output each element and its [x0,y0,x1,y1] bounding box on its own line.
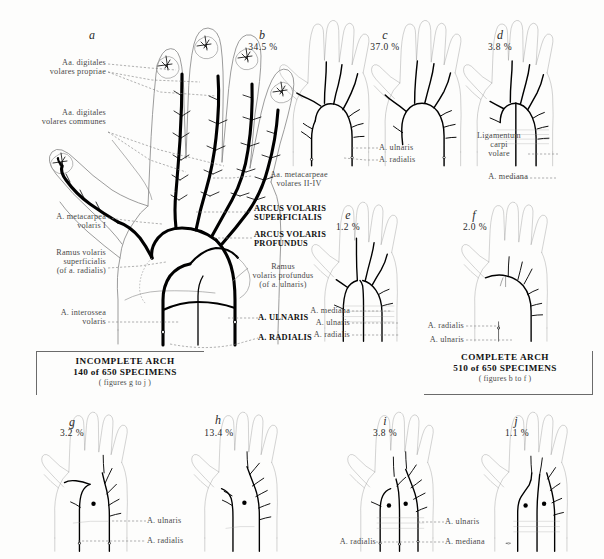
panel-j-artwork [0,0,604,559]
anatomical-plate: a Aa. digitales volares propriae Aa. dig… [0,0,604,559]
panel-j-percent: 1.1 % [492,428,542,438]
panel-j-letter: j [506,414,526,429]
